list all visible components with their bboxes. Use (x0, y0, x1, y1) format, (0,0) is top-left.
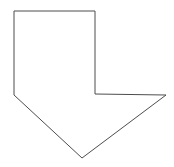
shape-canvas-svg (0, 0, 174, 167)
drawing-canvas (0, 0, 174, 167)
down-arrow-polygon (14, 11, 166, 158)
